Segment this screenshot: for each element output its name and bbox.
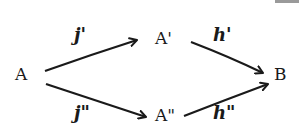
arrow-j-double-prime	[46, 84, 146, 117]
node-b: B	[274, 66, 287, 83]
diagram-canvas: A A' A" B j' j" h' h"	[0, 0, 303, 136]
arrow-h-prime	[191, 42, 263, 73]
label-j-double-prime: j"	[74, 104, 90, 122]
node-a-prime: A'	[155, 30, 172, 47]
label-h-double-prime: h"	[213, 104, 235, 122]
node-a: A	[15, 66, 27, 83]
arrow-j-prime	[45, 40, 137, 71]
label-j-prime: j'	[74, 26, 86, 44]
label-h-prime: h'	[213, 26, 232, 44]
node-a-double-prime: A"	[155, 107, 175, 124]
arrows-layer	[0, 0, 303, 136]
